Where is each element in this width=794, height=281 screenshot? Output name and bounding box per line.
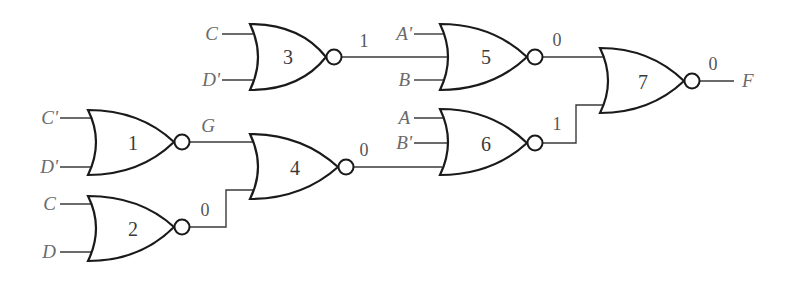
- input-label-a-prime: A': [394, 23, 413, 44]
- nor-circuit-diagram: 3 5 7 1 2 4 6 C D' A' B C' D' C D A B' 1…: [0, 0, 794, 281]
- inverter-bubble-icon: [175, 220, 190, 235]
- nor-gate-7: [600, 48, 700, 113]
- wire-value-g6-out: 1: [553, 114, 562, 134]
- gate-number: 4: [290, 157, 300, 179]
- inverter-bubble-icon: [175, 135, 190, 150]
- nor-gate-1: [88, 110, 190, 175]
- input-label-b-prime: B': [396, 132, 413, 153]
- input-label-c: C: [205, 23, 218, 44]
- wire-value-g7-out: 0: [709, 54, 718, 74]
- nor-gate-4: [250, 134, 354, 199]
- nor-gate-2: [88, 196, 190, 261]
- nor-gate-3: [250, 24, 342, 90]
- inverter-bubble-icon: [685, 74, 700, 89]
- nor-gate-6: [440, 109, 543, 175]
- inverter-bubble-icon: [339, 160, 354, 175]
- inverter-bubble-icon: [528, 50, 543, 65]
- wire-label-g: G: [201, 115, 215, 136]
- input-label-d-prime: D': [201, 69, 221, 90]
- input-label-d: D: [41, 241, 56, 262]
- gate-number: 5: [481, 46, 491, 68]
- input-label-c-prime: C': [41, 107, 59, 128]
- input-label-b: B: [398, 69, 410, 90]
- input-label-d-prime: D': [39, 156, 59, 177]
- wire-value-g5-out: 0: [553, 30, 562, 50]
- input-label-a: A: [396, 107, 410, 128]
- gate-number: 2: [128, 218, 138, 240]
- nor-gate-5: [440, 24, 543, 90]
- inverter-bubble-icon: [327, 50, 342, 65]
- wire-value-g2-out: 0: [201, 200, 210, 220]
- input-label-c: C: [43, 193, 56, 214]
- gate-number: 7: [638, 71, 648, 93]
- output-label-f: F: [741, 70, 754, 91]
- gate-number: 3: [283, 46, 293, 68]
- wire-value-g3-out: 1: [360, 31, 369, 51]
- gate-number: 6: [481, 133, 491, 155]
- wire-value-g4-out: 0: [360, 140, 369, 160]
- inverter-bubble-icon: [528, 136, 543, 151]
- gate-number: 1: [128, 132, 138, 154]
